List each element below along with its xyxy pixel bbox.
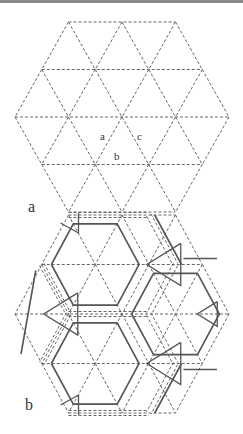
channel-dashed-line <box>147 315 174 365</box>
lattice-diagonal-edge <box>15 70 42 118</box>
lattice-diagonal-edge <box>69 314 96 364</box>
lattice-diagonal-edge <box>122 117 149 165</box>
lattice-diagonal-edge <box>95 70 122 118</box>
lattice-diagonal-edge <box>176 215 203 265</box>
lattice-diagonal-edge <box>149 314 176 364</box>
lattice-diagonal-edge <box>69 117 96 165</box>
lattice-diagonal-edge <box>122 22 149 70</box>
lattice-diagonal-edge <box>149 364 176 414</box>
lattice-diagonal-edge <box>15 314 42 364</box>
channel-solid-edge <box>21 271 36 355</box>
lattice-diagonal-edge <box>149 265 176 315</box>
lattice-diagonal-edge <box>95 314 122 364</box>
lattice-diagonal-edge <box>42 70 69 118</box>
channel-dashed-line <box>151 214 178 263</box>
lattice-diagonal-edge <box>176 117 203 165</box>
lattice-diagonal-edge <box>42 165 69 213</box>
lattice-diagonal-edge <box>15 117 42 165</box>
lattice-diagonal-edge <box>69 22 96 70</box>
lattice-diagonal-edge <box>95 165 122 213</box>
lattice-diagonal-edge <box>95 215 122 265</box>
lattice-diagonal-edge <box>69 265 96 315</box>
panel-a-triangular-lattice <box>0 0 243 434</box>
lattice-diagonal-edge <box>176 165 203 213</box>
lattice-diagonal-edge <box>176 70 203 118</box>
channel-dashed-line <box>151 365 178 415</box>
lattice-diagonal-edge <box>69 165 96 213</box>
lattice-diagonal-edge <box>15 265 42 315</box>
edge-label-c: c <box>137 131 142 142</box>
lattice-diagonal-edge <box>176 265 203 315</box>
lattice-diagonal-edge <box>122 165 149 213</box>
lattice-diagonal-edge <box>42 22 69 70</box>
lattice-diagonal-edge <box>95 265 122 315</box>
lattice-diagonal-edge <box>176 364 203 414</box>
lattice-diagonal-edge <box>149 215 176 265</box>
lattice-diagonal-edge <box>149 117 176 165</box>
channel-dashed-line <box>147 263 174 313</box>
lattice-diagonal-edge <box>42 117 69 165</box>
panel-b-label: b <box>25 397 33 413</box>
lattice-diagonal-edge <box>149 22 176 70</box>
lattice-diagonal-edge <box>202 70 229 118</box>
lattice-diagonal-edge <box>122 70 149 118</box>
lattice-diagonal-edge <box>149 70 176 118</box>
lattice-diagonal-edge <box>95 22 122 70</box>
edge-label-a: a <box>100 131 105 142</box>
edge-label-b: b <box>114 151 120 162</box>
lattice-diagonal-edge <box>176 22 203 70</box>
lattice-diagonal-edge <box>69 215 96 265</box>
lattice-diagonal-edge <box>95 364 122 414</box>
lattice-diagonal-edge <box>202 117 229 165</box>
lattice-diagonal-edge <box>176 314 203 364</box>
panel-a-label: a <box>28 199 35 215</box>
lattice-diagonal-edge <box>149 165 176 213</box>
lattice-diagonal-edge <box>69 70 96 118</box>
lattice-diagonal-edge <box>69 364 96 414</box>
